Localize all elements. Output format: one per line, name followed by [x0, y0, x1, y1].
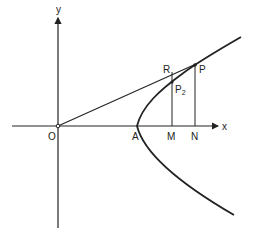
label-o: O — [48, 131, 56, 142]
y-axis-label: y — [56, 4, 61, 15]
label-n: N — [191, 131, 198, 142]
label-a: A — [132, 131, 139, 142]
diagram-canvas: y x O A M N P R P2 — [0, 0, 253, 241]
label-r: R — [163, 64, 170, 75]
origin-point — [56, 124, 60, 128]
line-o-to-p — [58, 64, 196, 126]
label-m: M — [167, 131, 175, 142]
point-p2-dot — [170, 80, 173, 83]
label-p2: P2 — [175, 84, 186, 96]
x-axis-label: x — [222, 121, 227, 132]
point-p-dot — [193, 63, 197, 67]
label-p: P — [199, 64, 206, 75]
label-p2-sub: 2 — [182, 89, 186, 96]
